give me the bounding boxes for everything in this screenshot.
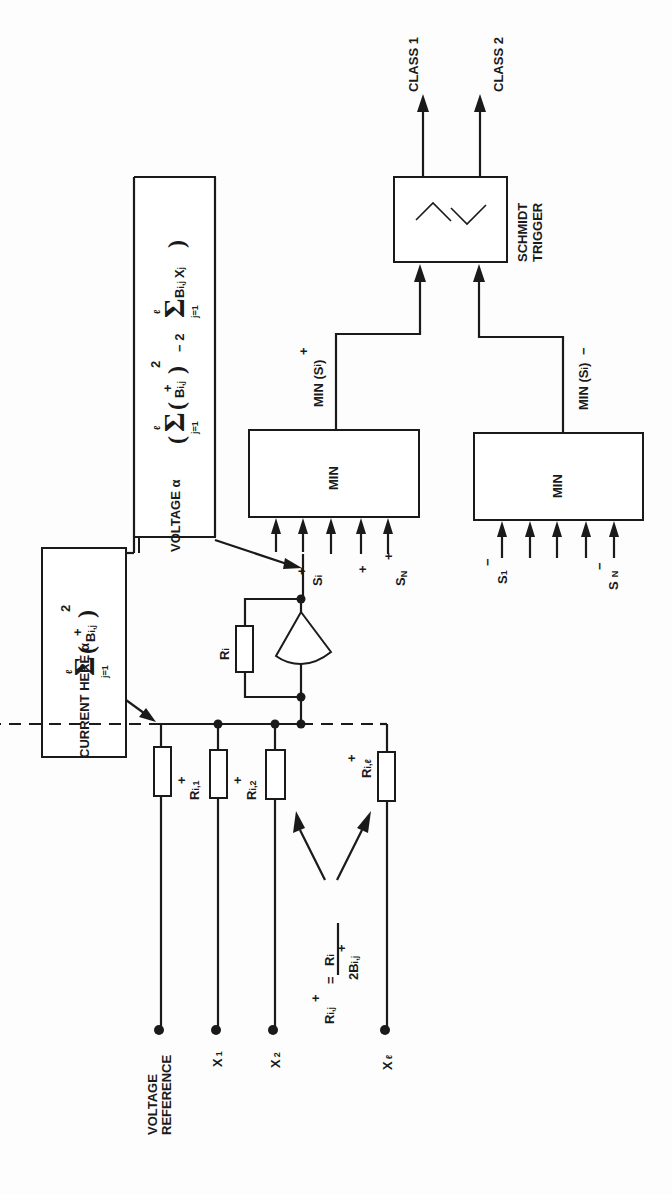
svg-text:SN: SN [393, 571, 409, 586]
junction-dot [297, 720, 306, 729]
svg-text:+: + [294, 567, 309, 575]
svg-text:Ri,ℓ: Ri,ℓ [359, 759, 374, 778]
input-labels: VOLTAGE REFERENCE X1 X2 Xℓ [145, 1051, 395, 1135]
terminal-dot [154, 1025, 164, 1035]
svg-text:Ri,2: Ri,2 [244, 781, 259, 800]
arrow-up-icon [473, 264, 485, 282]
x1-label: X1 [210, 1051, 225, 1067]
arrow-up-icon [417, 94, 429, 112]
trigger-label: TRIGGER [530, 202, 545, 262]
svg-text:j=1: j=1 [190, 305, 200, 319]
formula-pointers [293, 811, 371, 880]
svg-text:MIN (Si): MIN (Si) [576, 363, 591, 410]
svg-text:(: ( [73, 646, 99, 654]
svg-text:Σ: Σ [157, 298, 190, 318]
svg-text:+: + [160, 384, 175, 392]
svg-text:+: + [355, 565, 370, 573]
voltage-pointer-line [215, 540, 290, 565]
resistor-il: Ri,ℓ + [344, 724, 395, 1035]
svg-text:−: − [480, 558, 495, 566]
svg-text:+: + [230, 776, 245, 784]
min-block-top: MIN + SN + [249, 430, 419, 586]
svg-text:2: 2 [58, 605, 73, 612]
min-top-output-label: MIN (Si) + [296, 347, 326, 407]
svg-text:+: + [70, 628, 85, 636]
svg-text:Ri,j: Ri,j [322, 1007, 337, 1024]
current-annotation-box: CURRENT HERE α Σ ℓ j=1 ( Bi,j + ) 2 [42, 548, 156, 758]
arrow-icon [357, 811, 371, 833]
svg-text:−: − [592, 562, 607, 570]
arrow-up-icon [474, 94, 486, 112]
diagram-svg: CLASS 1 CLASS 2 SCHMIDT TRIGGER MIN (Si)… [0, 0, 672, 1195]
voltage-reference-label: VOLTAGE [145, 1074, 160, 1135]
resistance-formula: Ri,j + = Ri 2Bi,j + [308, 923, 361, 1024]
resistor-i1: Ri,1 + [174, 724, 227, 1035]
terminal-dot [380, 1025, 390, 1035]
svg-text:Ri,1: Ri,1 [187, 781, 202, 800]
circuit-diagram: CLASS 1 CLASS 2 SCHMIDT TRIGGER MIN (Si)… [0, 0, 672, 1195]
voltage-prefix: VOLTAGE α [168, 479, 183, 552]
schmidt-trigger: SCHMIDT TRIGGER [394, 177, 545, 262]
svg-text:Ri: Ri [322, 954, 337, 966]
svg-text:ℓ: ℓ [152, 425, 162, 430]
class1-label: CLASS 1 [406, 37, 421, 92]
schmidt-label: SCHMIDT [515, 203, 530, 262]
svg-text:j=1: j=1 [100, 665, 110, 679]
svg-text:Ri: Ri [217, 648, 232, 660]
svg-text:+: + [174, 776, 189, 784]
svg-text:2: 2 [148, 361, 163, 368]
resistor-ref [154, 724, 171, 1035]
feedback-resistor [236, 626, 253, 672]
class2-output: CLASS 2 [474, 37, 506, 177]
svg-text:+: + [344, 754, 359, 762]
arrow-icon [283, 558, 302, 569]
svg-text:−: − [576, 347, 591, 355]
class1-output: CLASS 1 [406, 37, 429, 177]
resistor-i2: Ri,2 + [230, 724, 285, 1035]
svg-text:2Bi,j: 2Bi,j [346, 956, 361, 980]
class2-label: CLASS 2 [491, 37, 506, 92]
arrow-up-icon [414, 264, 426, 282]
svg-text:S1: S1 [495, 570, 510, 584]
min-bottom-input-arrows [497, 521, 619, 558]
svg-text:=: = [323, 976, 338, 984]
x2-label: X2 [268, 1052, 283, 1068]
svg-text:− 2: − 2 [172, 334, 187, 352]
svg-text:REFERENCE: REFERENCE [159, 1054, 174, 1135]
svg-text:ℓ: ℓ [64, 669, 74, 674]
svg-text:): ) [163, 366, 189, 374]
svg-text:Si: Si [310, 575, 325, 586]
min-label: MIN [550, 474, 565, 498]
schmidt-inputs [336, 264, 563, 433]
terminal-dot [211, 1025, 221, 1035]
arrow-icon [293, 811, 305, 833]
min-label: MIN [326, 466, 341, 490]
svg-text:): ) [73, 610, 99, 618]
svg-text:j=1: j=1 [190, 421, 200, 435]
amplifier-icon [276, 612, 331, 664]
min-block-bottom: MIN S1 − SN − [474, 433, 643, 590]
svg-text:+: + [308, 994, 323, 1002]
min-bottom-output-label: MIN (Si) − [576, 347, 591, 410]
terminal-dot [268, 1025, 278, 1035]
svg-text:(: ( [163, 402, 189, 410]
svg-text:+: + [381, 552, 396, 560]
svg-text:SN: SN [606, 571, 621, 590]
svg-text:MIN (Si): MIN (Si) [311, 360, 326, 407]
xl-label: Xℓ [380, 1054, 395, 1070]
svg-text:+: + [334, 944, 349, 952]
amplifier-stage: Ri Si + [217, 554, 331, 724]
svg-text:+: + [296, 347, 311, 355]
svg-text:(: ( [163, 436, 189, 444]
svg-text:): ) [163, 240, 189, 248]
svg-text:ℓ: ℓ [152, 309, 162, 314]
min-top-input-arrows [271, 518, 393, 554]
